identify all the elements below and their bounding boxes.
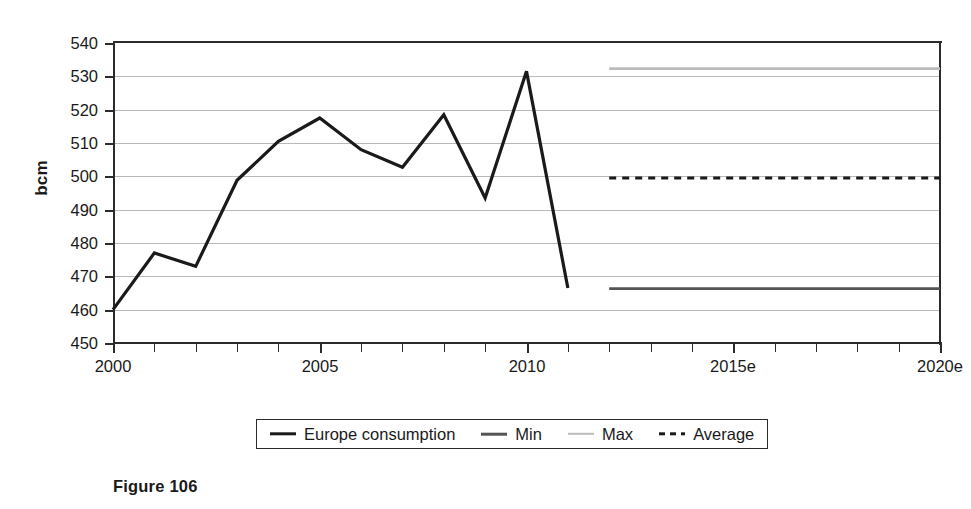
x-tick-mark [402, 344, 403, 352]
x-tick-mark [651, 344, 652, 352]
x-tick-mark [278, 344, 279, 352]
legend-line-icon [270, 429, 296, 439]
x-tick-mark [196, 344, 197, 352]
y-tick-mark [105, 310, 113, 312]
x-tick-mark [775, 344, 776, 352]
series-line-europe-consumption [113, 71, 568, 309]
x-tick-mark [609, 344, 610, 352]
y-tick-label: 510 [46, 135, 98, 152]
legend-label: Max [602, 426, 633, 443]
x-tick-mark [444, 344, 445, 352]
x-tick-mark [320, 344, 322, 353]
x-tick-mark [899, 344, 900, 352]
x-tick-mark [361, 344, 362, 352]
y-tick-mark [105, 176, 113, 178]
y-tick-label: 500 [46, 168, 98, 185]
y-tick-label: 470 [46, 268, 98, 285]
x-tick-mark [527, 344, 529, 353]
legend-line-icon [659, 429, 685, 439]
y-tick-mark [105, 43, 113, 45]
y-tick-label: 520 [46, 102, 98, 119]
x-tick-label: 2015e [688, 358, 778, 375]
y-tick-label: 450 [46, 335, 98, 352]
x-tick-mark [154, 344, 155, 352]
x-tick-mark [568, 344, 569, 352]
legend-item-average[interactable]: Average [659, 426, 754, 443]
legend-line-icon [568, 429, 594, 439]
x-tick-mark [692, 344, 693, 352]
x-tick-mark [733, 344, 735, 353]
y-tick-label: 480 [46, 235, 98, 252]
y-tick-mark [105, 343, 113, 345]
x-tick-mark [485, 344, 486, 352]
legend-item-europe-consumption[interactable]: Europe consumption [270, 426, 455, 443]
x-tick-label: 2005 [275, 358, 365, 375]
legend-label: Europe consumption [304, 426, 455, 443]
x-tick-label: 2000 [68, 358, 158, 375]
y-tick-label: 530 [46, 68, 98, 85]
x-tick-label: 2020e [895, 358, 971, 375]
legend-item-max[interactable]: Max [568, 426, 633, 443]
y-tick-mark [105, 76, 113, 78]
data-series-layer [113, 43, 940, 343]
y-tick-label: 540 [46, 35, 98, 52]
x-tick-mark [816, 344, 817, 352]
y-tick-mark [105, 276, 113, 278]
y-tick-label: 460 [46, 302, 98, 319]
x-tick-label: 2010 [482, 358, 572, 375]
y-tick-mark [105, 210, 113, 212]
y-tick-mark [105, 243, 113, 245]
y-tick-mark [105, 110, 113, 112]
y-tick-mark [105, 143, 113, 145]
figure-caption: Figure 106 [113, 477, 198, 496]
x-tick-mark [113, 344, 115, 353]
x-tick-mark [237, 344, 238, 352]
x-tick-mark [940, 344, 942, 353]
legend-label: Average [693, 426, 754, 443]
y-tick-label: 490 [46, 202, 98, 219]
figure-container: bcm 540530520510500490480470460450 20002… [0, 0, 971, 509]
x-tick-mark [857, 344, 858, 352]
legend-label: Min [515, 426, 542, 443]
chart-legend: Europe consumptionMinMaxAverage [256, 419, 768, 449]
legend-item-min[interactable]: Min [481, 426, 542, 443]
legend-line-icon [481, 429, 507, 439]
